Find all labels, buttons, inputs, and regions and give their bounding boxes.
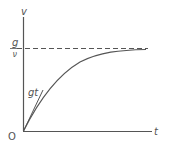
tangent-label: gt	[28, 87, 39, 98]
x-axis-label: t	[154, 126, 159, 137]
y-axis-label: v	[21, 6, 28, 17]
asymptote-numerator: g	[12, 37, 18, 48]
velocity-curve	[24, 50, 147, 132]
asymptote-denominator: ν	[13, 50, 18, 59]
origin-label: O	[8, 131, 16, 142]
velocity-time-diagram: v t O g ν gt	[0, 0, 179, 143]
